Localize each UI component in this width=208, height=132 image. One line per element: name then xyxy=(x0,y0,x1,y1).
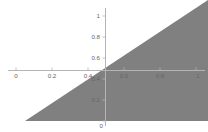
x-tick-label-0: 0 xyxy=(14,72,18,79)
y-tick-label-2: 0.4 xyxy=(91,75,100,82)
x-tick-label-3: 0.6 xyxy=(120,72,129,79)
y-tick-label-3: 0.6 xyxy=(91,54,100,61)
y-tick-label-1: 0.2 xyxy=(91,96,100,103)
figure-container: 0 0.2 0.4 0.6 0.8 1 1 0.8 0.6 0.4 0.2 0 xyxy=(0,0,208,132)
plot-canvas: 0 0.2 0.4 0.6 0.8 1 1 0.8 0.6 0.4 0.2 0 xyxy=(0,0,208,132)
x-tick-label-5: 1 xyxy=(196,72,200,79)
y-tick-label-4: 0.8 xyxy=(91,33,100,40)
x-tick-label-1: 0.2 xyxy=(48,72,57,79)
y-tick-label-5: 1 xyxy=(97,12,101,19)
x-tick-label-4: 0.8 xyxy=(156,72,165,79)
y-tick-label-0: 0 xyxy=(100,122,104,129)
